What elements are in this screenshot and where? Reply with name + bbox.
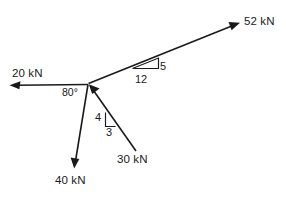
slope-triangle-5-12 bbox=[133, 58, 159, 69]
force-52kn-shaft bbox=[89, 26, 234, 84]
force-label-40kn: 40 kN bbox=[55, 175, 86, 187]
slope-label-rise-5: 5 bbox=[160, 61, 166, 72]
force-52kn-arrowhead bbox=[229, 22, 241, 30]
force-diagram-canvas: 20 kN 52 kN 30 kN 40 kN 80° 5 12 4 3 bbox=[0, 0, 286, 199]
force-40kn-arrowhead bbox=[71, 158, 80, 169]
force-label-20kn: 20 kN bbox=[12, 68, 43, 80]
slope-label-rise-4: 4 bbox=[95, 112, 101, 123]
force-vector-52kn bbox=[89, 22, 241, 84]
force-label-30kn: 30 kN bbox=[117, 154, 148, 166]
slope-label-run-3: 3 bbox=[106, 127, 112, 138]
slope-triangle-5-12-outline bbox=[133, 58, 159, 69]
force-label-52kn: 52 kN bbox=[244, 16, 275, 28]
slope-label-run-12: 12 bbox=[135, 74, 147, 85]
angle-label-80-degrees: 80° bbox=[62, 87, 78, 98]
force-diagram-svg bbox=[0, 0, 286, 199]
force-20kn-arrowhead bbox=[10, 81, 21, 89]
